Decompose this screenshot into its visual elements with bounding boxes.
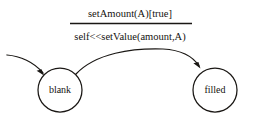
blank-to-filled-arc [76,49,199,74]
diagram-svg: blank filled setAmount(A)[true] self<<se… [0,0,253,124]
state-node-blank[interactable]: blank [38,68,82,112]
transition-event-label: setAmount(A)[true] [88,8,172,20]
state-label-filled: filled [204,84,225,95]
transition-initial-entry[interactable] [7,55,44,76]
transition-blank-to-filled[interactable] [76,49,201,74]
state-node-filled[interactable]: filled [193,68,237,112]
blank-to-filled-arrowhead [193,62,200,69]
state-diagram-canvas: blank filled setAmount(A)[true] self<<se… [0,0,253,124]
transition-action-label: self<<setValue(amount,A) [74,31,186,43]
transition-annotation: setAmount(A)[true] self<<setValue(amount… [70,8,192,43]
initial-entry-arc [7,55,43,73]
state-label-blank: blank [49,84,71,95]
